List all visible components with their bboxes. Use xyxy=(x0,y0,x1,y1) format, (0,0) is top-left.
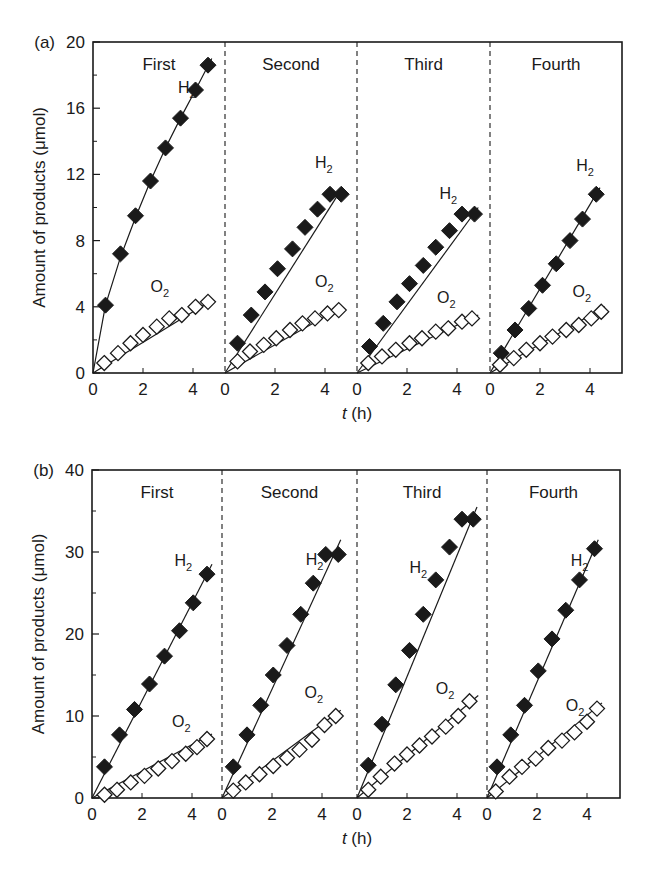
h2-marker-filled-diamond xyxy=(97,759,113,775)
x-tick-label: 2 xyxy=(138,380,147,399)
h2-marker-filled-diamond xyxy=(572,572,588,588)
h2-marker-filled-diamond xyxy=(297,219,313,235)
x-axis-title: t (h) xyxy=(342,404,372,423)
o2-series-label: O2 xyxy=(437,289,456,310)
h2-marker-filled-diamond xyxy=(521,300,537,316)
h2-marker-filled-diamond xyxy=(465,511,481,527)
o2-marker-open-diamond xyxy=(123,775,138,790)
x-tick-label: 4 xyxy=(188,380,197,399)
x-tick-label: 0 xyxy=(482,805,491,824)
panel-b: 010203040(b)Amount of products (μmol)024… xyxy=(29,461,620,848)
h2-marker-filled-diamond xyxy=(362,339,378,355)
run-third: ThirdH2O2 xyxy=(357,55,483,373)
h2-marker-filled-diamond xyxy=(285,241,301,257)
o2-series-label: O2 xyxy=(305,684,324,705)
x-axis-title: t (h) xyxy=(342,829,372,848)
h2-marker-filled-diamond xyxy=(230,335,246,351)
o2-marker-open-diamond xyxy=(266,759,281,774)
h2-marker-filled-diamond xyxy=(128,208,144,224)
run-label: Second xyxy=(261,483,319,502)
run-second: SecondH2O2 xyxy=(222,483,346,798)
o2-marker-open-diamond xyxy=(567,725,582,740)
o2-marker-open-diamond xyxy=(136,327,151,342)
x-tick-label: 4 xyxy=(452,380,461,399)
o2-marker-open-diamond xyxy=(151,761,166,776)
y-axis-title: Amount of products (μmol) xyxy=(29,534,48,735)
run-label: Fourth xyxy=(529,483,578,502)
y-tick-label: 0 xyxy=(76,364,85,383)
h2-marker-filled-diamond xyxy=(562,233,578,249)
o2-marker-open-diamond xyxy=(165,754,180,769)
run-fourth: FourthH2O2 xyxy=(490,55,609,373)
o2-marker-open-diamond xyxy=(555,733,570,748)
o2-marker-open-diamond xyxy=(97,356,112,371)
o2-marker-open-diamond xyxy=(243,344,258,359)
o2-marker-open-diamond xyxy=(230,354,245,369)
run-label: First xyxy=(140,483,173,502)
o2-marker-open-diamond xyxy=(387,756,402,771)
h2-marker-filled-diamond xyxy=(257,284,273,300)
o2-marker-open-diamond xyxy=(283,322,298,337)
x-tick-label: 0 xyxy=(352,380,361,399)
h2-marker-filled-diamond xyxy=(253,697,269,713)
h2-marker-filled-diamond xyxy=(415,606,431,622)
h2-marker-filled-diamond xyxy=(113,246,129,262)
h2-marker-filled-diamond xyxy=(142,676,158,692)
h2-marker-filled-diamond xyxy=(548,256,564,272)
y-tick-label: 30 xyxy=(65,543,84,562)
x-tick-label: 4 xyxy=(317,805,326,824)
o2-marker-open-diamond xyxy=(137,768,152,783)
h2-marker-filled-diamond xyxy=(374,716,390,732)
h2-marker-filled-diamond xyxy=(402,276,418,292)
h2-marker-filled-diamond xyxy=(558,602,574,618)
h2-marker-filled-diamond xyxy=(200,57,216,73)
figure: 048121620(a)Amount of products (μmol)024… xyxy=(0,0,651,879)
h2-marker-filled-diamond xyxy=(442,223,458,239)
o2-series-label: O2 xyxy=(573,283,592,304)
h2-marker-filled-diamond xyxy=(265,667,281,683)
x-tick-label: 2 xyxy=(137,805,146,824)
o2-marker-open-diamond xyxy=(451,709,466,724)
o2-series-label: O2 xyxy=(566,697,585,718)
o2-marker-open-diamond xyxy=(428,324,443,339)
h2-marker-filled-diamond xyxy=(172,623,188,639)
h2-series-label: H2 xyxy=(315,154,333,175)
h2-series-label: H2 xyxy=(178,79,196,100)
h2-series-label: H2 xyxy=(571,552,589,573)
y-tick-label: 20 xyxy=(65,625,84,644)
h2-marker-filled-diamond xyxy=(389,294,405,310)
h2-marker-filled-diamond xyxy=(535,277,551,293)
y-tick-label: 20 xyxy=(66,33,85,52)
o2-marker-open-diamond xyxy=(361,356,376,371)
h2-series-label: H2 xyxy=(410,559,428,580)
o2-series-label: O2 xyxy=(315,273,334,294)
x-tick-label: 4 xyxy=(585,380,594,399)
run-label: Second xyxy=(262,55,320,74)
h2-series-label: H2 xyxy=(175,552,193,573)
h2-series-label: H2 xyxy=(576,157,594,178)
o2-marker-open-diamond xyxy=(174,308,189,323)
x-tick-label: 2 xyxy=(267,805,276,824)
o2-marker-open-diamond xyxy=(388,342,403,357)
run-second: SecondH2O2 xyxy=(225,55,349,373)
y-axis-title: Amount of products (μmol) xyxy=(30,107,49,308)
y-tick-label: 4 xyxy=(76,298,85,317)
o2-marker-open-diamond xyxy=(502,769,517,784)
x-tick-label: 2 xyxy=(402,805,411,824)
h2-marker-filled-diamond xyxy=(158,140,174,156)
o2-marker-open-diamond xyxy=(111,346,126,361)
o2-marker-open-diamond xyxy=(545,329,560,344)
y-tick-label: 16 xyxy=(66,99,85,118)
o2-series-label: O2 xyxy=(151,278,170,299)
o2-series-label: O2 xyxy=(172,713,191,734)
h2-marker-filled-diamond xyxy=(310,201,326,217)
x-tick-label: 0 xyxy=(485,380,494,399)
x-tick-label: 0 xyxy=(87,805,96,824)
o2-marker-open-diamond xyxy=(305,732,320,747)
o2-marker-open-diamond xyxy=(375,349,390,364)
x-tick-label: 2 xyxy=(532,805,541,824)
run-fourth: FourthH2O2 xyxy=(487,483,605,799)
h2-series-label: H2 xyxy=(440,185,458,206)
h2-marker-filled-diamond xyxy=(330,546,346,562)
o2-marker-open-diamond xyxy=(256,337,271,352)
